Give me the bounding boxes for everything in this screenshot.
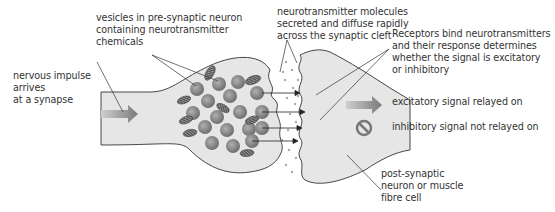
- vesicles-label: vesicles in pre-synaptic neuron containi…: [96, 12, 242, 48]
- neurotransmitter-molecules: [281, 61, 299, 173]
- receptors-label: Receptors bind neurotransmitters and the…: [392, 28, 551, 76]
- postsynaptic-label: post-synaptic neuron or muscle fibre cel…: [381, 168, 463, 204]
- synapse-diagram: vesicles in pre-synaptic neuron containi…: [0, 0, 555, 212]
- impulse-label: nervous impulse arrives at a synapse: [13, 70, 91, 106]
- inhibitory-label: inhibitory signal not relayed on: [392, 121, 538, 133]
- excitatory-label: excitatory signal relayed on: [392, 96, 523, 108]
- neurotransmitter-label: neurotransmitter molecules secreted and …: [277, 6, 408, 42]
